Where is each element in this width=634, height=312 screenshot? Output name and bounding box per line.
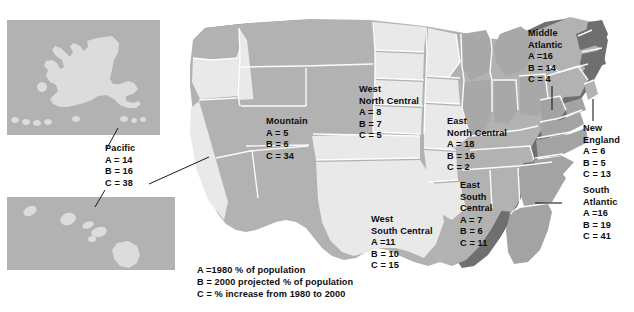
region-stat-c: C = 41 — [583, 231, 618, 243]
state-florida — [506, 204, 552, 264]
region-label-middle-atlantic: Middle Atlantic A =16 B = 14 C = 4 — [528, 28, 563, 86]
region-stat-b: B = 16 — [447, 151, 507, 163]
region-name-line: Middle — [528, 28, 563, 40]
region-name-line: New — [583, 123, 620, 135]
region-stat-c: C = 38 — [105, 178, 135, 190]
legend-line-c: C = % increase from 1980 to 2000 — [197, 288, 353, 300]
region-stat-a: A = 5 — [266, 128, 308, 140]
region-name-line: Mountain — [266, 116, 308, 128]
region-stat-a: A =16 — [583, 208, 618, 220]
region-name-line: Atlantic — [583, 197, 618, 209]
region-label-pacific: Pacific A = 14 B = 16 C = 38 — [105, 143, 135, 189]
region-stat-c: C = 2 — [447, 162, 507, 174]
region-label-new-england: New England A = 6 B = 5 C = 13 — [583, 123, 620, 181]
us-population-map-figure: Pacific A = 14 B = 16 C = 38 Mountain A … — [0, 0, 634, 312]
region-stat-c: C = 13 — [583, 169, 620, 181]
region-stat-a: A = 14 — [105, 155, 135, 167]
region-name-line: North Central — [359, 96, 419, 108]
region-stat-a: A =16 — [528, 51, 563, 63]
region-stat-b: B = 16 — [105, 166, 135, 178]
region-name-line: North Central — [447, 128, 507, 140]
region-label-south-atlantic: South Atlantic A =16 B = 19 C = 41 — [583, 185, 618, 243]
alaska-inset — [7, 20, 160, 135]
region-label-mountain: Mountain A = 5 B = 6 C = 34 — [266, 116, 308, 162]
state-oregon — [192, 58, 238, 99]
region-name-line: Atlantic — [528, 40, 563, 52]
region-stat-c: C = 4 — [528, 74, 563, 86]
region-name-line: South Central — [371, 226, 433, 238]
region-stat-a: A =11 — [371, 237, 433, 249]
region-name-line: Pacific — [105, 143, 135, 155]
state-south-dakota — [375, 52, 424, 80]
region-name-line: Central — [460, 203, 492, 215]
region-name-line: East — [447, 116, 507, 128]
region-stat-b: B = 6 — [460, 226, 492, 238]
region-name-line: South — [583, 185, 618, 197]
region-stat-a: A = 8 — [359, 107, 419, 119]
state-north-dakota — [374, 22, 426, 52]
region-stat-b: B = 14 — [528, 63, 563, 75]
region-stat-b: B = 19 — [583, 220, 618, 232]
region-label-west-north-central: West North Central A = 8 B = 7 C = 5 — [359, 84, 419, 142]
region-label-west-south-central: West South Central A =11 B = 10 C = 15 — [371, 214, 433, 272]
hawaii-inset — [7, 197, 175, 270]
region-stat-c: C = 5 — [359, 130, 419, 142]
region-label-east-north-central: East North Central A = 18 B = 16 C = 2 — [447, 116, 507, 174]
legend: A =1980 % of population B = 2000 project… — [197, 264, 353, 301]
region-label-east-south-central: East South Central A = 7 B = 6 C = 11 — [460, 180, 492, 250]
state-alabama — [492, 168, 520, 212]
legend-line-b: B = 2000 projected % of population — [197, 276, 353, 288]
region-stat-c: C = 15 — [371, 260, 433, 272]
alaska-kodiak-island — [37, 82, 47, 92]
region-name-line: South — [460, 192, 492, 204]
region-stat-b: B = 6 — [266, 139, 308, 151]
region-name-line: East — [460, 180, 492, 192]
state-washington — [193, 25, 240, 58]
region-name-line: West — [359, 84, 419, 96]
region-name-line: England — [583, 135, 620, 147]
region-stat-c: C = 34 — [266, 151, 308, 163]
region-name-line: West — [371, 214, 433, 226]
state-iowa — [425, 78, 460, 104]
legend-line-a: A =1980 % of population — [197, 264, 353, 276]
region-stat-a: A = 7 — [460, 215, 492, 227]
region-stat-b: B = 5 — [583, 158, 620, 170]
region-stat-a: A = 6 — [583, 146, 620, 158]
region-stat-a: A = 18 — [447, 139, 507, 151]
state-montana — [240, 20, 373, 67]
region-stat-b: B = 7 — [359, 119, 419, 131]
region-stat-c: C = 11 — [460, 238, 492, 250]
region-stat-b: B = 10 — [371, 249, 433, 261]
